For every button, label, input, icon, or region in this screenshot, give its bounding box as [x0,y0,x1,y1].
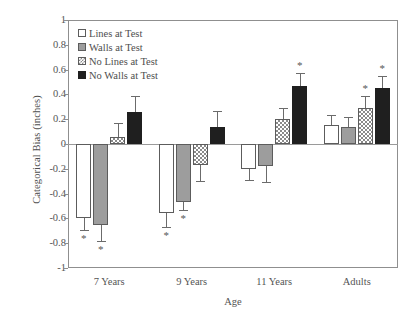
legend-swatch-icon [78,57,86,65]
bar [127,112,142,144]
error-bar-stem [135,96,136,112]
legend-item-label: Lines at Test [89,28,142,39]
x-tick-label: Adults [317,276,397,287]
bar [110,137,125,144]
bar [193,144,208,165]
legend-swatch-icon [78,71,86,79]
error-bar-stem [331,115,332,125]
bar [176,144,191,202]
significance-marker: * [96,244,106,255]
error-bar-cap [80,230,89,231]
x-tick-label: 7 Years [69,276,149,287]
error-bar-stem [200,165,201,181]
error-bar-stem [217,111,218,127]
error-bar-cap [262,182,271,183]
bar [159,144,174,213]
error-bar-cap [97,241,106,242]
bar [358,108,373,144]
bar [210,127,225,144]
error-bar-stem [382,76,383,88]
y-tick-label: 0.2 [0,114,66,125]
error-bar-cap [213,111,222,112]
significance-marker: * [295,60,305,71]
bar [324,125,339,144]
error-bar-cap [344,117,353,118]
legend-item-label: No Walls at Test [89,70,158,81]
significance-marker: * [360,83,370,94]
legend-item: No Walls at Test [78,68,158,82]
legend-item-label: Walls at Test [89,42,143,53]
y-tick-label: 0 [0,139,66,150]
bar [258,144,273,166]
legend-item: Lines at Test [78,26,158,40]
significance-marker: * [79,233,89,244]
y-tick-label: -0.2 [0,164,66,175]
legend-item: No Lines at Test [78,54,158,68]
bar [292,86,307,144]
categorical-bias-bar-chart: Categorical Bias (inches) 10.80.60.40.20… [0,0,411,323]
error-bar-cap [327,115,336,116]
bar [375,88,390,144]
significance-marker: * [161,230,171,241]
error-bar-stem [101,225,102,241]
legend-swatch-icon [78,29,86,37]
legend-item: Walls at Test [78,40,158,54]
y-tick-label: 0.4 [0,89,66,100]
significance-marker: * [178,213,188,224]
significance-marker: * [377,63,387,74]
error-bar-cap [378,76,387,77]
error-bar-stem [166,213,167,227]
error-bar-cap [196,181,205,182]
error-bar-stem [365,96,366,108]
y-tick-label: -0.8 [0,238,66,249]
error-bar-stem [249,169,250,180]
error-bar-cap [279,108,288,109]
y-tick-label: -1 [0,263,66,274]
error-bar-stem [283,108,284,119]
bar [76,144,91,218]
x-axis-title: Age [68,296,398,307]
error-bar-cap [162,227,171,228]
error-bar-stem [84,218,85,229]
bar [341,127,356,144]
error-bar-stem [183,202,184,209]
y-tick-label: -0.4 [0,189,66,200]
error-bar-cap [245,180,254,181]
error-bar-stem [118,123,119,137]
y-tick-label: 0.8 [0,40,66,51]
error-bar-stem [266,166,267,182]
error-bar-cap [131,96,140,97]
legend: Lines at TestWalls at TestNo Lines at Te… [78,26,158,82]
y-tick-label: 1 [0,15,66,26]
legend-swatch-icon [78,43,86,51]
y-tick-label: -0.6 [0,213,66,224]
bar [275,119,290,144]
x-tick-label: 9 Years [152,276,232,287]
error-bar-cap [114,123,123,124]
x-tick-label: 11 Years [234,276,314,287]
error-bar-cap [361,96,370,97]
error-bar-cap [296,73,305,74]
y-tick-label: 0.6 [0,65,66,76]
legend-item-label: No Lines at Test [89,56,158,67]
bar [93,144,108,225]
error-bar-cap [179,210,188,211]
error-bar-stem [348,117,349,127]
bar [241,144,256,169]
zero-baseline [68,144,398,145]
error-bar-stem [300,73,301,85]
y-tick-mark [64,268,68,269]
